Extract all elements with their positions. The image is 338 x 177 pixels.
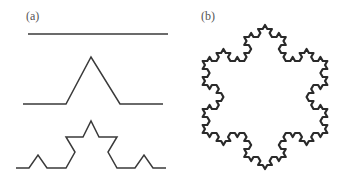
panel-a: [16, 34, 168, 168]
panel-b: [203, 25, 328, 169]
figure-canvas: [0, 0, 338, 177]
koch-iteration-2: [16, 121, 166, 168]
koch-snowflake: [203, 25, 328, 169]
koch-iteration-1: [23, 57, 163, 104]
